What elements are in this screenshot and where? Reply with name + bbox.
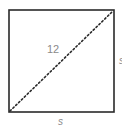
right-side-label: s [119,56,122,66]
diagonal-length-label: 12 [47,44,59,55]
square-diagram-svg [0,0,122,132]
bottom-side-label: s [58,117,63,127]
square-diagram: 12 s s [0,0,122,132]
diagonal-line [10,11,113,111]
